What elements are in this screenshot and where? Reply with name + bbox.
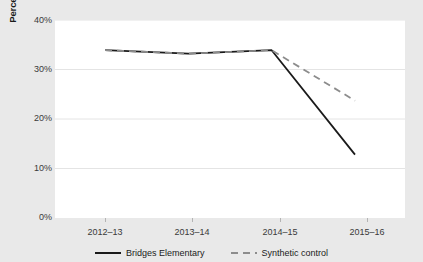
x-tick-label-2014-15: 2014–15 (245, 226, 315, 238)
y-tick-label-10: 10% (18, 163, 52, 173)
legend-item-bridges-elementary: Bridges Elementary (95, 247, 205, 259)
legend-item-synthetic-control: Synthetic control (231, 247, 329, 259)
x-tick-mark (105, 218, 106, 222)
x-tick-mark (367, 218, 368, 222)
x-tick-label-2015-16: 2015–16 (332, 226, 402, 238)
x-tick-label-2012-13: 2012–13 (70, 226, 140, 238)
x-tick-label-2013-14: 2013–14 (157, 226, 227, 238)
chart-legend: Bridges Elementary Synthetic control (0, 245, 423, 261)
x-axis-tick-labels: 2012–13 2013–14 2014–15 2015–16 (55, 226, 405, 240)
series-line-bridges-elementary (105, 50, 355, 154)
x-tick-mark (280, 218, 281, 222)
gridlines (55, 20, 405, 169)
y-tick-label-40: 40% (18, 15, 52, 25)
plot-svg (55, 20, 405, 218)
y-tick-label-20: 20% (18, 113, 52, 123)
plot-area (55, 20, 405, 218)
legend-swatch-dashed-icon (231, 248, 257, 258)
y-axis-tick-labels: 40% 30% 20% 10% 0% (14, 0, 52, 262)
legend-label-synthetic-control: Synthetic control (262, 247, 329, 259)
x-tick-mark (192, 218, 193, 222)
legend-swatch-solid-icon (95, 248, 121, 258)
y-tick-label-30: 30% (18, 64, 52, 74)
series-line-synthetic-control (105, 50, 355, 100)
y-tick-label-0: 0% (18, 212, 52, 222)
chart-figure: Percentage students chronically absent 4… (0, 0, 423, 262)
series-lines (105, 50, 355, 154)
legend-label-bridges-elementary: Bridges Elementary (126, 247, 205, 259)
